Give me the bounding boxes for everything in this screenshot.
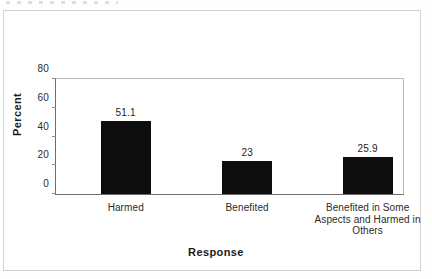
chart-figure: Percent 0 20 40 60 80 51.1 Harmed bbox=[0, 0, 432, 279]
bar-group-benefited: 23 Benefited bbox=[199, 79, 295, 194]
y-tick-label-20: 20 bbox=[37, 149, 49, 160]
x-tick-label-line: Benefited bbox=[189, 202, 305, 214]
bar-value-harmed: 51.1 bbox=[116, 107, 136, 118]
x-axis-title: Response bbox=[0, 246, 432, 258]
y-tick-label-60: 60 bbox=[37, 91, 49, 102]
x-tick-label-benefited-and-harmed: Benefited in Some Aspects and Harmed in … bbox=[310, 202, 426, 237]
x-tick-label-line: Aspects and Harmed in bbox=[310, 214, 426, 226]
x-tick-label-line: Others bbox=[310, 225, 426, 237]
bar-harmed bbox=[101, 121, 151, 194]
bar-value-benefited: 23 bbox=[241, 147, 253, 158]
bars-layer: 51.1 Harmed 23 Benefited 25.9 Benefited … bbox=[56, 79, 403, 194]
y-tick-label-0: 0 bbox=[43, 178, 49, 189]
x-tick-label-line: Harmed bbox=[68, 202, 184, 214]
bar-benefited bbox=[222, 161, 272, 194]
bar-benefited-and-harmed bbox=[343, 157, 393, 194]
x-tick-label-benefited: Benefited bbox=[189, 202, 305, 214]
y-axis-title: Percent bbox=[11, 93, 23, 136]
y-tick-label-80: 80 bbox=[37, 63, 49, 74]
x-tick-label-harmed: Harmed bbox=[68, 202, 184, 214]
scan-artifact bbox=[6, 1, 118, 4]
bar-group-harmed: 51.1 Harmed bbox=[78, 79, 174, 194]
x-tick-label-line: Benefited in Some bbox=[310, 202, 426, 214]
plot-area: 0 20 40 60 80 51.1 Harmed 23 Benefited bbox=[55, 78, 404, 195]
y-tick-label-40: 40 bbox=[37, 120, 49, 131]
bar-value-benefited-and-harmed: 25.9 bbox=[357, 143, 377, 154]
bar-group-benefited-and-harmed: 25.9 Benefited in Some Aspects and Harme… bbox=[320, 79, 416, 194]
